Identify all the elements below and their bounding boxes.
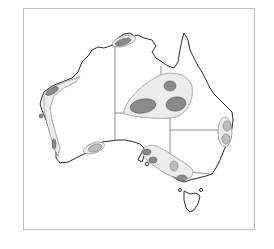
- flinders-island-islet: [200, 189, 203, 192]
- vic-core: [177, 175, 187, 181]
- sa-core-2: [149, 157, 157, 163]
- kangaroo-island: [145, 162, 149, 166]
- sa-core-3: [170, 161, 178, 171]
- sa-core-1: [143, 149, 151, 155]
- nsw-core-north: [223, 121, 231, 131]
- west-coast-core-south: [52, 139, 56, 149]
- west-coast-islet: [39, 114, 43, 118]
- nsw-core-south: [222, 134, 230, 144]
- australia-map: [0, 0, 274, 249]
- kangaroo-island-islet: [179, 189, 182, 192]
- tasmania-outline: [184, 191, 200, 212]
- central-core-north: [164, 81, 176, 91]
